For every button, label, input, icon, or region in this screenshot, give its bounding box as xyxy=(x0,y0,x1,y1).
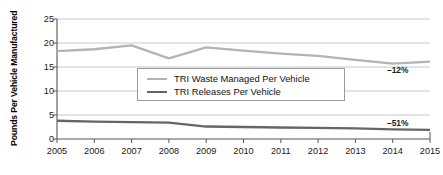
x-tick-label: 2008 xyxy=(152,147,186,156)
legend-swatch-waste-managed xyxy=(147,78,167,80)
chart-legend: TRI Waste Managed Per Vehicle TRI Releas… xyxy=(137,68,345,101)
x-tick-label: 2010 xyxy=(227,147,261,156)
annotation-releases-change: –51% xyxy=(387,119,408,128)
chart-container: Pounds Per Vehicle Manufactured 25 20 15… xyxy=(0,0,443,175)
legend-label-releases: TRI Releases Per Vehicle xyxy=(174,86,281,97)
x-tick-label: 2012 xyxy=(301,147,335,156)
x-tick-label: 2005 xyxy=(40,147,74,156)
x-tick-label: 2013 xyxy=(338,147,372,156)
series-line-releases xyxy=(57,121,430,130)
x-tick-label: 2011 xyxy=(264,147,298,156)
x-tick-label: 2015 xyxy=(413,147,443,156)
x-axis-ticks xyxy=(57,139,430,143)
y-axis-ticks xyxy=(53,19,57,139)
x-tick-label: 2007 xyxy=(115,147,149,156)
annotation-waste-change: –12% xyxy=(387,66,408,75)
legend-item-waste-managed: TRI Waste Managed Per Vehicle xyxy=(138,72,344,85)
legend-label-waste-managed: TRI Waste Managed Per Vehicle xyxy=(174,73,310,84)
legend-swatch-releases xyxy=(147,91,167,93)
series-line-waste-managed xyxy=(57,45,430,63)
legend-item-releases: TRI Releases Per Vehicle xyxy=(138,85,344,98)
x-tick-label: 2009 xyxy=(189,147,223,156)
x-tick-label: 2014 xyxy=(376,147,410,156)
x-tick-label: 2006 xyxy=(77,147,111,156)
